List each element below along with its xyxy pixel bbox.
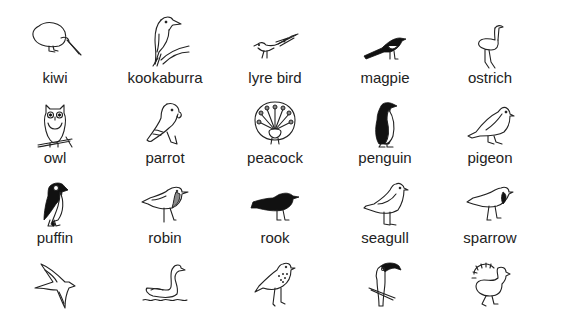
bird-label: ostrich [440,70,540,86]
peacock-icon [253,100,297,146]
penguin-icon [373,102,397,148]
swallow-icon [35,262,75,308]
robin-icon [142,186,188,224]
bird-label: parrot [115,150,215,166]
lyre-bird-icon [252,34,298,58]
kiwi-icon [27,18,83,58]
kookaburra-icon [141,12,189,66]
pigeon-icon [466,104,514,146]
puffin-icon [42,182,68,228]
owl-icon [36,103,74,149]
rook-icon [251,192,299,222]
thrush-icon [255,262,295,308]
parrot-icon [145,102,185,148]
magpie-icon [362,34,408,60]
bird-label: magpie [335,70,435,86]
swan-icon [143,262,187,304]
bird-label: sparrow [440,230,540,246]
bird-label: rook [225,230,325,246]
turkey-icon [470,262,510,308]
ostrich-icon [475,24,505,70]
bird-label: seagull [335,230,435,246]
bird-label: kiwi [5,70,105,86]
bird-label: pigeon [440,150,540,166]
sparrow-icon [467,186,513,224]
seagull-icon [362,182,408,228]
bird-label: robin [115,230,215,246]
toucan-icon [369,262,401,308]
bird-label: owl [5,150,105,166]
bird-label: peacock [225,150,325,166]
bird-label: kookaburra [115,70,215,86]
bird-label: lyre bird [225,70,325,86]
bird-label: puffin [5,230,105,246]
bird-label: penguin [335,150,435,166]
